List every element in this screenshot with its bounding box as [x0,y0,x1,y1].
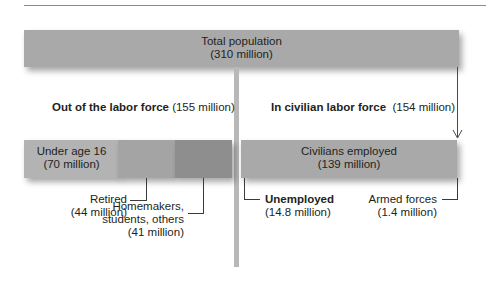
unemployed-label: Unemployed (14.8 million) [265,193,334,219]
armed-forces-title: Armed forces [369,193,437,206]
in-labor-force-title: In civilian labor force [271,101,386,113]
retired-leader-vertical [146,178,147,200]
out-of-labor-force-heading: Out of the labor force (155 million) [52,101,235,113]
homemakers-value: (41 million) [102,226,184,239]
total-population-label: Total population [24,35,459,48]
homemakers-title-line1: Homemakers, [102,200,184,213]
out-of-labor-force-title: Out of the labor force [52,101,169,113]
total-population-value: (310 million) [24,48,459,61]
under-16-value: (70 million) [24,158,119,171]
unemployed-title: Unemployed [265,193,334,206]
armed-forces-label: Armed forces (1.4 million) [369,193,437,219]
homemakers-leader-horizontal [188,213,204,214]
unemployed-leader-horizontal [244,199,260,200]
employed-value: (139 million) [241,158,457,171]
under-16-box: Under age 16 (70 million) [24,140,119,178]
under-16-label: Under age 16 [24,145,119,158]
armed-forces-value: (1.4 million) [369,206,437,219]
out-of-labor-force-value: (155 million) [172,101,235,113]
top-rule [24,5,486,6]
civilians-employed-box: Civilians employed (139 million) [241,140,457,178]
armed-forces-leader-horizontal [442,199,458,200]
homemakers-leader-vertical [203,178,204,213]
unemployed-leader-vertical [244,178,245,199]
in-labor-force-value: (154 million) [392,101,455,113]
homemakers-title-line2: students, others [102,213,184,226]
arrow-down-icon [452,129,463,139]
homemakers-label: Homemakers, students, others (41 million… [102,200,184,239]
employed-label: Civilians employed [241,145,457,158]
in-labor-force-heading: In civilian labor force (154 million) [271,101,455,113]
unemployed-value: (14.8 million) [265,206,334,219]
total-population-box: Total population (310 million) [24,30,459,67]
homemakers-box [175,140,232,178]
center-divider [234,67,239,267]
armed-forces-leader-vertical [457,178,458,199]
retired-box [118,140,175,178]
armed-forces-arrow-line [457,67,458,137]
